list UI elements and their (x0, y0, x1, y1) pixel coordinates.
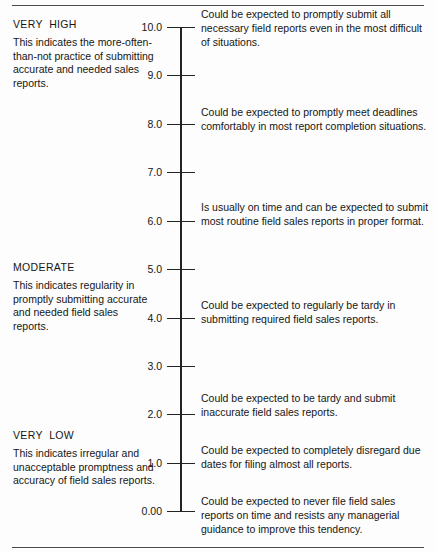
axis-tick-3 (167, 366, 195, 367)
axis-label-8: 8.0 (118, 118, 162, 130)
behavior-statement-4: Could be expected to regularly be tardy … (201, 298, 429, 326)
anchor-description-very-high: This indicates the more-often-than-not p… (13, 36, 155, 90)
behavior-statement-0: Could be expected to never file field sa… (201, 494, 429, 536)
behavior-statement-6: Is usually on time and can be expected t… (201, 200, 429, 228)
axis-tick-9 (167, 75, 195, 76)
top-divider-rule (12, 5, 424, 6)
axis-label-5: 5.0 (118, 263, 162, 275)
axis-label-6: 6.0 (118, 215, 162, 227)
axis-label-1: 1.0 (118, 457, 162, 469)
behavior-statement-10: Could be expected to promptly submit all… (201, 7, 429, 49)
bottom-divider-rule (12, 547, 424, 548)
anchor-description-moderate: This indicates regularity in promptly su… (13, 279, 155, 333)
behavior-statement-8: Could be expected to promptly meet deadl… (201, 105, 429, 133)
axis-tick-8 (167, 124, 195, 125)
axis-tick-0 (167, 511, 195, 512)
axis-label-4: 4.0 (118, 312, 162, 324)
axis-label-2: 2.0 (118, 408, 162, 420)
axis-tick-6 (167, 221, 195, 222)
behavior-statement-1: Could be expected to completely disregar… (201, 443, 429, 471)
axis-label-9: 9.0 (118, 69, 162, 81)
axis-label-3: 3.0 (118, 360, 162, 372)
anchor-title-very-low: VERY LOW (13, 429, 155, 441)
axis-label-0: 0.00 (118, 505, 162, 517)
axis-label-7: 7.0 (118, 166, 162, 178)
behavior-statement-2: Could be expected to be tardy and submit… (201, 391, 429, 419)
axis-tick-10 (167, 27, 195, 28)
axis-tick-1 (167, 463, 195, 464)
axis-label-10: 10.0 (118, 21, 162, 33)
axis-tick-2 (167, 414, 195, 415)
rating-scale-figure: VERY HIGH This indicates the more-often-… (0, 0, 436, 553)
axis-tick-7 (167, 172, 195, 173)
axis-tick-5 (167, 269, 195, 270)
axis-tick-4 (167, 318, 195, 319)
